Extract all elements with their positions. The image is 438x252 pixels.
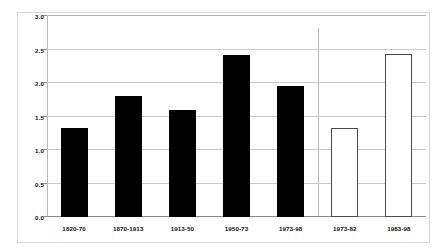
y-axis-label-0.0: 0.0 bbox=[35, 214, 44, 221]
y-tick-mark-0.5 bbox=[43, 183, 47, 184]
y-tick-mark-1.0 bbox=[43, 149, 47, 150]
y-axis-label-0.5: 0.5 bbox=[35, 180, 44, 187]
group-separator-line bbox=[318, 28, 319, 217]
bar-1973-82 bbox=[331, 128, 358, 217]
y-tick-mark-1.5 bbox=[43, 116, 47, 117]
y-tick-mark-3.0 bbox=[43, 15, 47, 16]
y-axis-tick-labels: 0.00.51.01.52.02.53.0 bbox=[18, 14, 44, 219]
bar-chart-figure: 0.00.51.01.52.02.53.0 1820-701870-191319… bbox=[0, 0, 438, 252]
plot-area bbox=[47, 16, 426, 217]
bar-1913-50 bbox=[169, 110, 196, 217]
y-tick-mark-0.0 bbox=[43, 216, 47, 217]
y-axis-label-2.5: 2.5 bbox=[35, 46, 44, 53]
x-axis-label-1913-50: 1913-50 bbox=[171, 225, 194, 232]
y-tick-mark-2.5 bbox=[43, 49, 47, 50]
y-axis-label-3.0: 3.0 bbox=[35, 13, 44, 20]
y-axis-label-2.0: 2.0 bbox=[35, 80, 44, 87]
bar-1950-73 bbox=[223, 55, 250, 217]
bar-1983-98 bbox=[385, 54, 412, 217]
x-axis-label-1973-82: 1973-82 bbox=[333, 225, 356, 232]
y-tick-mark-2.0 bbox=[43, 82, 47, 83]
x-axis-label-1983-98: 1983-98 bbox=[387, 225, 410, 232]
gridline-2.5 bbox=[47, 49, 426, 50]
x-axis-label-1870-1913: 1870-1913 bbox=[113, 225, 144, 232]
y-axis-line bbox=[47, 16, 48, 217]
bar-1870-1913 bbox=[115, 96, 142, 217]
x-axis-label-1820-70: 1820-70 bbox=[62, 225, 85, 232]
x-axis-label-1950-73: 1950-73 bbox=[225, 225, 248, 232]
y-axis-label-1.0: 1.0 bbox=[35, 147, 44, 154]
bar-1973-98 bbox=[277, 86, 304, 217]
x-axis-tick-labels: 1820-701870-19131913-501950-731973-98197… bbox=[47, 219, 426, 235]
x-axis-label-1973-98: 1973-98 bbox=[279, 225, 302, 232]
y-axis-label-1.5: 1.5 bbox=[35, 113, 44, 120]
gridline-3.0 bbox=[47, 15, 426, 16]
bar-1820-70 bbox=[61, 128, 88, 217]
